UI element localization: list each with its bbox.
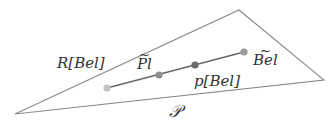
pl-tilde-text: ~ Pl — [137, 57, 152, 72]
point-p-bel — [191, 61, 198, 68]
label-region-p: 𝒫 — [169, 103, 181, 120]
diagram-canvas — [0, 0, 336, 128]
point-endpoint-left — [103, 84, 110, 91]
tilde-accent-icon: ~ — [253, 44, 278, 57]
label-bel-tilde: ~ Bel — [253, 53, 278, 68]
label-r-bel: R[Bel] — [57, 56, 105, 71]
point-pl-tilde — [155, 71, 162, 78]
label-pl-tilde: ~ Pl — [137, 57, 152, 72]
tilde-accent-icon: ~ — [137, 48, 152, 61]
point-bel-tilde — [240, 48, 247, 55]
bel-tilde-text: ~ Bel — [253, 53, 278, 68]
label-p-bel: p[Bel] — [194, 74, 240, 89]
